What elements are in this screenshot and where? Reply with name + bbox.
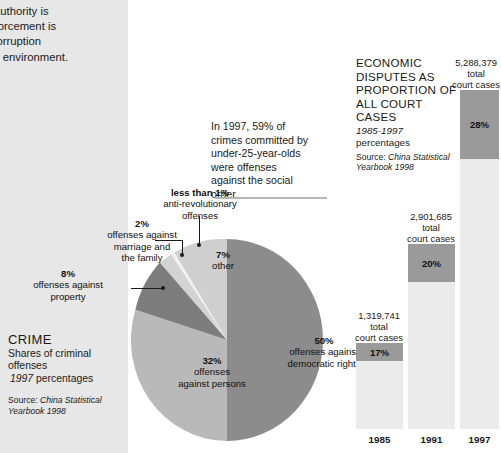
pie-name-other: other xyxy=(212,260,234,271)
crime-period: 1997 percentages xyxy=(8,373,126,385)
pie-pct-other: 7% xyxy=(216,249,230,260)
leader-dot-marriage xyxy=(180,253,184,257)
pie-pct-marriage-family: 2% xyxy=(135,218,149,229)
bars-unit: percentages xyxy=(356,137,466,149)
pie-pct-persons: 32% xyxy=(202,355,221,366)
bar-track-1991: 20% xyxy=(408,244,455,429)
pie-name-marriage-family: offenses againstmarriage andthe family xyxy=(107,229,177,263)
pie-label-other: 7% other xyxy=(200,249,246,272)
leader-line-property xyxy=(131,288,163,289)
leader-dot-property xyxy=(161,286,165,290)
crime-title: CRIME xyxy=(8,332,126,347)
bar-year-label-1997: 1997 xyxy=(460,434,499,445)
pie-name-property: offenses againstproperty xyxy=(33,279,103,301)
leader-dot-anti-rev xyxy=(197,243,201,247)
crime-period-unit: percentages xyxy=(33,373,93,384)
bar-fill-1985: 17% xyxy=(356,343,403,361)
bar-year-label-1985: 1985 xyxy=(356,434,403,445)
pie-label-persons: 32% offensesagainst persons xyxy=(157,355,267,389)
infographic-root: s, authority is enforcement is . Corrupt… xyxy=(0,0,501,453)
bar-fill-1997: 28% xyxy=(460,90,499,159)
bar-year-label-1991: 1991 xyxy=(408,434,455,445)
crime-source: Source: China Statistical Yearbook 1998 xyxy=(8,395,126,416)
bar-fill-1991: 20% xyxy=(408,244,455,282)
bar-track-1985: 17% xyxy=(356,343,403,429)
bars-source: Source: China Statistical Yearbook 1998 xyxy=(356,152,471,173)
bar-track-1997: 28% xyxy=(460,90,499,429)
center-note-rule xyxy=(215,197,327,199)
bars-period: 1985-1997 xyxy=(356,125,466,137)
pie-pct-property: 8% xyxy=(61,268,75,279)
bar-total-1985: 1,319,741 total court cases xyxy=(352,310,406,344)
pie-name-democratic-rights: offenses againstdemocratic rights xyxy=(287,346,360,368)
intro-paragraph: s, authority is enforcement is . Corrupt… xyxy=(0,4,162,65)
crime-source-prefix: Source: xyxy=(8,395,40,405)
pie-callout-property: 8% offenses againstproperty xyxy=(8,268,128,302)
crime-caption: CRIME Shares of criminal offenses 1997 p… xyxy=(8,332,126,416)
bars-source-prefix: Source: xyxy=(356,152,388,162)
crime-subtitle: Shares of criminal offenses xyxy=(8,348,126,373)
pie-name-persons: offensesagainst persons xyxy=(178,366,246,388)
crime-period-year: 1997 xyxy=(10,373,33,384)
bar-total-1997: 5,288,379 total court cases xyxy=(449,57,501,91)
leader-line-anti-rev-vertical xyxy=(199,216,200,245)
leader-line-marriage-horizontal xyxy=(155,240,183,241)
center-note: In 1997, 59% of crimes committed by unde… xyxy=(211,120,333,202)
bar-total-1991: 2,901,685 total court cases xyxy=(400,211,462,245)
pie-pct-democratic-rights: 50% xyxy=(314,335,333,346)
